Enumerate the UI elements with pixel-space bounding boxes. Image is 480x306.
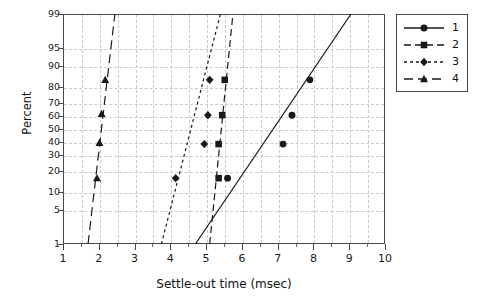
series-2: [210, 14, 233, 244]
legend: 1234: [396, 14, 468, 92]
x-tick-minor: [367, 244, 368, 247]
legend-label: 3: [452, 56, 459, 67]
x-tick-minor: [117, 244, 118, 247]
legend-label: 1: [452, 22, 459, 33]
data-point: [96, 139, 104, 146]
legend-item-2[interactable]: 2: [397, 36, 467, 53]
x-tick-label: 9: [346, 253, 353, 264]
x-tick-minor: [296, 244, 297, 247]
legend-item-4[interactable]: 4: [397, 70, 467, 87]
data-point: [215, 141, 222, 148]
x-tick-mark: [170, 244, 171, 250]
x-tick-mark: [99, 244, 100, 250]
data-point: [224, 175, 231, 182]
series-1: [195, 14, 351, 244]
x-tick-minor: [224, 244, 225, 247]
legend-label: 4: [452, 73, 459, 84]
fit-line-2: [210, 14, 233, 244]
x-tick-label: 1: [60, 253, 67, 264]
chart-container: Percent 15102030405060708090959912345678…: [0, 0, 480, 306]
legend-key-2: [402, 37, 446, 53]
x-tick-mark: [313, 244, 314, 250]
fit-line-1: [195, 14, 351, 244]
x-tick-label: 4: [167, 253, 174, 264]
x-axis-label: Settle-out time (msec): [63, 277, 385, 291]
x-tick-label: 3: [131, 253, 138, 264]
x-tick-label: 2: [95, 253, 102, 264]
x-tick-mark: [349, 244, 350, 250]
y-axis-label: Percent: [20, 73, 34, 153]
x-tick-mark: [385, 244, 386, 250]
data-point: [206, 76, 214, 84]
x-tick-minor: [260, 244, 261, 247]
data-point: [289, 112, 296, 119]
x-tick-label: 7: [274, 253, 281, 264]
legend-key-4: [402, 71, 446, 87]
x-tick-label: 5: [203, 253, 210, 264]
x-tick-mark: [242, 244, 243, 250]
x-tick-minor: [81, 244, 82, 247]
data-point: [215, 175, 222, 182]
series-3: [161, 14, 220, 244]
x-tick-minor: [188, 244, 189, 247]
data-point: [204, 111, 212, 119]
legend-marker-circle: [421, 24, 428, 31]
series-4: [88, 14, 115, 244]
data-point: [98, 110, 106, 117]
x-tick-mark: [63, 244, 64, 250]
data-point: [280, 141, 287, 148]
data-point: [200, 140, 208, 148]
legend-item-1[interactable]: 1: [397, 19, 467, 36]
x-tick-minor: [331, 244, 332, 247]
data-point: [93, 174, 101, 181]
data-point: [306, 76, 313, 83]
legend-marker-square: [421, 41, 428, 48]
x-tick-mark: [135, 244, 136, 250]
x-tick-label: 6: [238, 253, 245, 264]
x-tick-label: 10: [378, 253, 392, 264]
data-point: [221, 77, 228, 84]
data-point: [219, 112, 226, 119]
legend-marker-diamond: [420, 57, 428, 65]
legend-key-3: [402, 54, 446, 70]
fit-line-3: [161, 14, 220, 244]
data-layer: [63, 14, 385, 244]
legend-label: 2: [452, 39, 459, 50]
legend-key-1: [402, 20, 446, 36]
x-tick-mark: [278, 244, 279, 250]
legend-item-3[interactable]: 3: [397, 53, 467, 70]
data-point: [172, 174, 180, 182]
x-tick-mark: [206, 244, 207, 250]
data-svg: [63, 14, 385, 244]
x-tick-label: 8: [310, 253, 317, 264]
x-tick-minor: [152, 244, 153, 247]
fit-line-4: [88, 14, 115, 244]
